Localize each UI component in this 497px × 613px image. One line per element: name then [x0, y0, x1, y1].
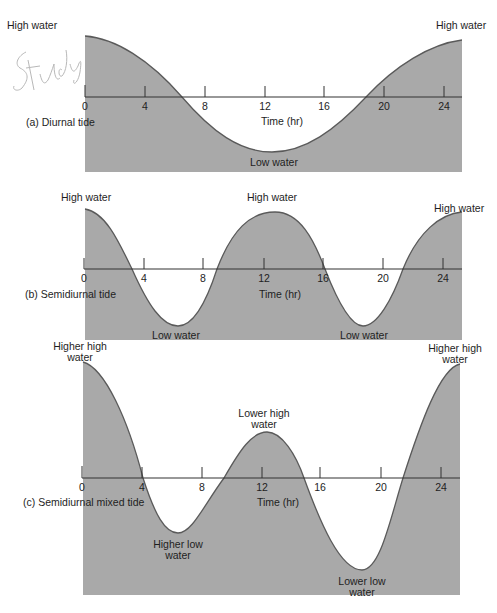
- panel-c-axis-label: Time (hr): [257, 497, 299, 508]
- panel-c-tick-12: 12: [256, 481, 268, 493]
- panel-b-tick-12: 12: [258, 272, 270, 284]
- tide-diagram: [0, 0, 497, 613]
- panel-b-label-high-mid: High water: [247, 192, 297, 203]
- panel-b-tick-8: 8: [200, 272, 206, 284]
- panel-b-tick-4: 4: [141, 272, 147, 284]
- panel-c-label-lower-low-2: water: [349, 587, 375, 598]
- panel-a-label-low: Low water: [250, 157, 298, 168]
- panel-b-label-low-1: Low water: [152, 330, 200, 341]
- panel-c-tick-0: 0: [79, 481, 85, 493]
- handwritten-study-annotation: [14, 50, 81, 90]
- panel-a-tick-20: 20: [378, 100, 390, 112]
- panel-c-tick-16: 16: [314, 481, 326, 493]
- panel-b-tick-16: 16: [317, 272, 329, 284]
- panel-a-tick-24: 24: [438, 100, 450, 112]
- panel-c-title: (c) Semidiurnal mixed tide: [23, 497, 144, 508]
- panel-c-label-higher-high-right-2: water: [442, 354, 468, 365]
- panel-a-tick-4: 4: [142, 100, 148, 112]
- panel-a-tick-16: 16: [318, 100, 330, 112]
- panel-a-tick-0: 0: [82, 100, 88, 112]
- panel-a-tick-8: 8: [202, 100, 208, 112]
- panel-a-label-high-right: High water: [436, 20, 486, 31]
- panel-b-label-low-2: Low water: [340, 330, 388, 341]
- panel-b-ticks: [84, 258, 443, 269]
- panel-a-label-high-left: High water: [7, 20, 57, 31]
- panel-b-label-high-left: High water: [61, 192, 111, 203]
- panel-a-axis-label: Time (hr): [261, 116, 303, 127]
- panel-c-label-higher-high-left-2: water: [67, 352, 93, 363]
- panel-b-tick-0: 0: [81, 272, 87, 284]
- panel-b-tick-24: 24: [437, 272, 449, 284]
- panel-c-label-higher-low-2: water: [165, 550, 191, 561]
- panel-c-mixed: [82, 362, 460, 595]
- panel-c-tick-8: 8: [199, 481, 205, 493]
- panel-c-tick-20: 20: [375, 481, 387, 493]
- panel-b-tick-20: 20: [377, 272, 389, 284]
- panel-a-title: (a) Diurnal tide: [26, 117, 95, 128]
- panel-b-axis-label: Time (hr): [259, 289, 301, 300]
- panel-c-label-lower-high-2: water: [251, 419, 277, 430]
- panel-c-tick-24: 24: [435, 481, 447, 493]
- panel-b-title: (b) Semidiurnal tide: [25, 289, 116, 300]
- panel-b-label-high-right: High water: [434, 203, 484, 214]
- panel-c-tick-4: 4: [139, 481, 145, 493]
- panel-a-tick-12: 12: [259, 100, 271, 112]
